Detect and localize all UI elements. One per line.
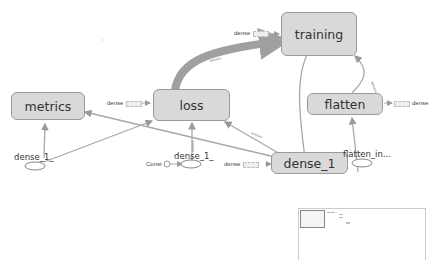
node-loss-label: loss: [179, 98, 203, 113]
op-flatten-in: [352, 159, 372, 167]
aux-dense-flatten-label: dense: [412, 100, 428, 106]
const-label: Const: [146, 161, 162, 167]
op-dense1-left-label: dense_1_: [14, 152, 54, 162]
op-dense1-mid-label: dense_1_: [174, 151, 214, 161]
minimap-node: [339, 214, 343, 215]
aux-dense-training-chip[interactable]: [253, 31, 269, 37]
aux-dense-flatten-chip[interactable]: [394, 101, 410, 107]
op-dense1-mid: [181, 160, 201, 168]
node-loss[interactable]: loss: [153, 89, 230, 121]
aux-dense-dense1-chip[interactable]: [243, 162, 259, 168]
node-dense-1-label: dense_1: [284, 156, 336, 171]
node-training[interactable]: training: [281, 12, 357, 56]
edge-dense1-loss: [225, 122, 282, 155]
node-metrics-label: metrics: [25, 99, 72, 114]
aux-dense-training-label: dense: [234, 30, 250, 36]
edge-loss-training: [175, 42, 275, 90]
node-metrics[interactable]: metrics: [11, 92, 85, 120]
minimap-node: [327, 212, 335, 213]
node-flatten-label: flatten: [325, 97, 366, 112]
op-dense1-left: [25, 162, 45, 170]
aux-dense-loss-label: dense: [107, 100, 123, 106]
op-flatten-in-label: flatten_in...: [343, 149, 391, 159]
node-training-label: training: [295, 27, 343, 42]
node-dense-1[interactable]: dense_1: [271, 152, 348, 174]
minimap-node: [339, 217, 343, 218]
edge-dense1-training: [300, 55, 307, 158]
minimap-node: [346, 222, 350, 224]
minimap-viewport[interactable]: [300, 210, 325, 228]
minimap[interactable]: [298, 208, 426, 260]
aux-dense-dense1-label: dense: [224, 161, 240, 167]
edge-dense1left-loss: [44, 121, 152, 162]
node-flatten[interactable]: flatten: [307, 93, 383, 115]
svg-text:tensors: tensors: [370, 81, 378, 93]
aux-dense-loss-chip[interactable]: [126, 101, 142, 107]
edge-flatten-training: [352, 56, 364, 93]
